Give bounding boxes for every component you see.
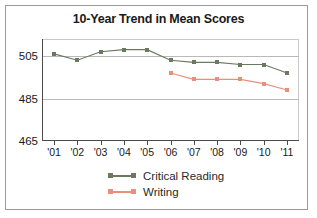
x-axis-tick-label: '01 [47, 146, 61, 158]
data-point-marker [262, 63, 266, 67]
legend-label: Critical Reading [143, 170, 224, 182]
x-axis-tick-label: '03 [94, 146, 108, 158]
data-point-marker [122, 48, 126, 52]
x-axis-tick-label: '06 [164, 146, 178, 158]
data-point-marker [192, 60, 196, 64]
data-point-marker [52, 52, 56, 56]
x-axis-tick [287, 141, 288, 145]
x-axis-tick [171, 141, 172, 145]
x-axis-tick [217, 141, 218, 145]
x-axis-tick [194, 141, 195, 145]
legend-item-writing[interactable]: Writing [0, 184, 317, 200]
x-axis-tick-label: '11 [281, 146, 294, 158]
data-point-marker [262, 82, 266, 86]
chart-title: 10-Year Trend in Mean Scores [0, 12, 317, 26]
x-axis-tick-label: '02 [70, 146, 84, 158]
chart-legend: Critical Reading Writing [0, 168, 317, 200]
legend-swatch-icon [108, 171, 136, 181]
x-axis-tick-label: '05 [140, 146, 154, 158]
legend-swatch-icon [108, 187, 136, 197]
y-axis-tick-label: 505 [19, 50, 38, 62]
x-axis-tick [124, 141, 125, 145]
x-axis-tick-label: '07 [187, 146, 201, 158]
data-point-marker [238, 77, 242, 81]
chart-figure: 10-Year Trend in Mean Scores 465485505 '… [0, 0, 317, 218]
data-point-marker [285, 71, 289, 75]
x-axis-tick [54, 141, 55, 145]
x-axis-tick-label: '04 [117, 146, 131, 158]
x-axis-tick [147, 141, 148, 145]
data-point-marker [75, 58, 79, 62]
legend-label: Writing [143, 186, 179, 198]
data-point-marker [238, 63, 242, 67]
data-point-marker [285, 88, 289, 92]
series-line [171, 73, 288, 90]
plot-area [42, 39, 299, 141]
x-axis-tick [101, 141, 102, 145]
x-axis-labels: '01'02'03'04'05'06'07'08'09'10'11 [0, 146, 317, 160]
series-lines [42, 39, 299, 141]
data-point-marker [215, 77, 219, 81]
data-point-marker [215, 60, 219, 64]
data-point-marker [192, 77, 196, 81]
legend-item-critical-reading[interactable]: Critical Reading [0, 168, 317, 184]
x-axis-tick-label: '08 [210, 146, 224, 158]
data-point-marker [169, 58, 173, 62]
data-point-marker [145, 48, 149, 52]
y-axis-labels: 465485505 [0, 39, 38, 141]
x-axis-tick [240, 141, 241, 145]
x-axis-tick-label: '10 [257, 146, 271, 158]
x-axis-tick [77, 141, 78, 145]
y-axis-tick-label: 485 [19, 93, 38, 105]
x-axis-tick-label: '09 [234, 146, 248, 158]
x-axis-tick [264, 141, 265, 145]
data-point-marker [169, 71, 173, 75]
data-point-marker [99, 50, 103, 54]
